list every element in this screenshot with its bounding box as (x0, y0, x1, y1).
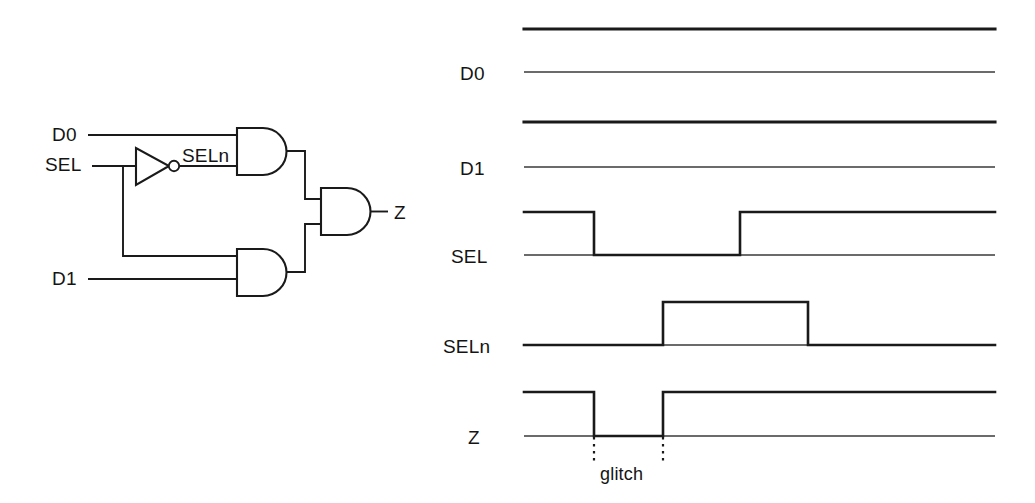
circuit-label-z: Z (394, 202, 406, 224)
waveform-z-trace (524, 392, 995, 436)
wire-and-top-to-output (287, 151, 321, 199)
waveform-z (524, 392, 995, 436)
inverter-bubble-icon (169, 161, 179, 171)
circuit-label-seln: SELn (182, 145, 229, 167)
figure-container: D0 SEL D1 SELn Z D0 D1 SEL SELn Z glitch (0, 0, 1035, 503)
waveform-seln (524, 302, 995, 345)
circuit-label-d0: D0 (52, 124, 77, 146)
wire-sel-branch (123, 166, 236, 256)
timing-diagram (524, 29, 995, 463)
waveform-sel-trace (524, 212, 995, 255)
waveform-seln-trace (524, 302, 995, 345)
glitch-markers (594, 437, 663, 463)
figure-canvas (0, 0, 1035, 503)
timing-label-sel: SEL (451, 246, 488, 268)
circuit-label-d1: D1 (52, 268, 77, 290)
and-gate-top (237, 128, 287, 175)
glitch-annotation-label: glitch (600, 464, 643, 485)
circuit-label-sel: SEL (45, 154, 82, 176)
waveform-sel (524, 212, 995, 255)
and-gate-output (321, 188, 371, 235)
circuit-schematic (88, 128, 388, 296)
and-gate-bottom (237, 249, 287, 296)
timing-label-d0: D0 (460, 63, 485, 85)
waveform-d1 (524, 122, 995, 167)
timing-label-seln: SELn (443, 336, 490, 358)
wire-and-bottom-to-output (287, 224, 321, 272)
timing-label-d1: D1 (460, 158, 485, 180)
timing-label-z: Z (468, 427, 480, 449)
inverter-gate (136, 148, 169, 185)
waveform-d0 (524, 29, 995, 72)
